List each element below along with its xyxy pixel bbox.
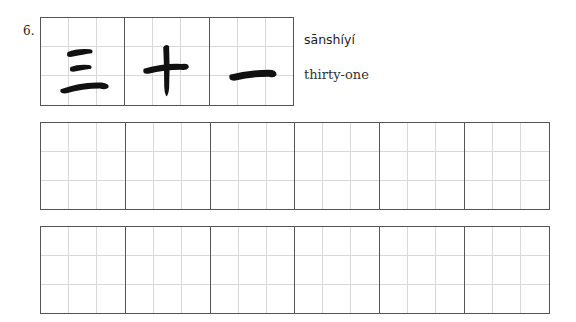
practice-cell[interactable]	[465, 123, 549, 209]
practice-cell[interactable]	[211, 227, 296, 313]
pinyin-label: sānshíyí	[304, 32, 355, 47]
yi-character-icon	[210, 18, 293, 105]
practice-cell[interactable]	[41, 123, 126, 209]
practice-cell[interactable]	[126, 123, 211, 209]
practice-cell[interactable]	[211, 123, 296, 209]
model-cell-shi	[125, 18, 209, 105]
shi-character-icon	[125, 18, 208, 105]
exercise-number: 6.	[23, 24, 34, 38]
practice-cell[interactable]	[41, 227, 126, 313]
meaning-label: thirty-one	[304, 67, 369, 82]
practice-cell[interactable]	[465, 227, 549, 313]
practice-cell[interactable]	[380, 227, 465, 313]
practice-cell[interactable]	[380, 123, 465, 209]
model-cell-yi	[210, 18, 293, 105]
practice-cell[interactable]	[295, 227, 380, 313]
practice-row-2	[40, 226, 550, 314]
practice-row-1	[40, 122, 550, 210]
practice-cell[interactable]	[126, 227, 211, 313]
san-character-icon	[41, 18, 124, 105]
character-model-box	[40, 17, 294, 106]
practice-cell[interactable]	[295, 123, 380, 209]
model-cell-san	[41, 18, 125, 105]
